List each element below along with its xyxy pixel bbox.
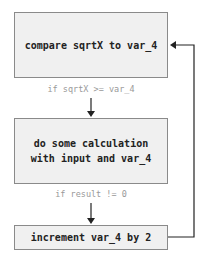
node-label: compare sqrtX to var_4 [25, 38, 157, 53]
node-label: do some calculation with input and var_4 [21, 136, 161, 166]
node-calc: do some calculation with input and var_4 [14, 118, 168, 184]
edge-label-compare-calc: if sqrtX >= var_4 [14, 84, 168, 94]
node-increment: increment var_4 by 2 [14, 225, 168, 250]
node-label: increment var_4 by 2 [31, 230, 151, 245]
node-compare: compare sqrtX to var_4 [14, 12, 168, 78]
edge-label-calc-increment: if result != 0 [14, 189, 168, 199]
